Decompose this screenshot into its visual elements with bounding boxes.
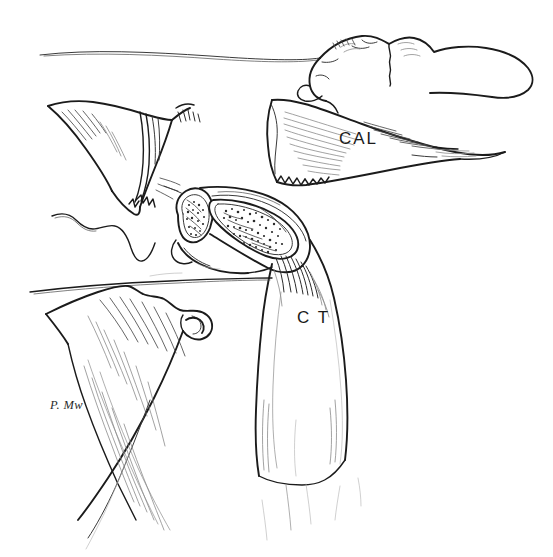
anatomical-figure: CAL C T P. Mw bbox=[0, 0, 553, 557]
label-cal: CAL bbox=[339, 130, 378, 147]
artist-signature: P. Mw bbox=[50, 398, 83, 413]
label-ct: C T bbox=[297, 309, 330, 326]
anatomy-drawing-canvas bbox=[0, 0, 553, 557]
